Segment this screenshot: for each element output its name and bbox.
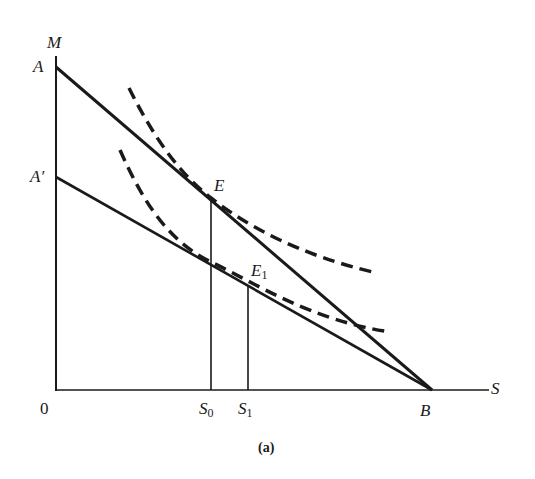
diagram-canvas [0, 0, 535, 479]
point-S1-label: S1 [238, 400, 253, 419]
point-S0-main: S [199, 399, 208, 418]
point-S0-sub: 0 [208, 406, 214, 420]
point-S1-main: S [238, 399, 247, 418]
point-S0-label: S0 [199, 400, 214, 419]
point-S1-sub: 1 [247, 406, 253, 420]
point-E-label: E [214, 177, 224, 194]
indifference-curve-lower [120, 150, 390, 332]
budget-line-A-prime-B [56, 177, 432, 390]
point-B-label: B [420, 402, 430, 419]
indifference-curve-upper [129, 88, 373, 272]
x-axis-label: S [491, 380, 500, 397]
budget-line-AB [56, 67, 432, 390]
y-axis-label: M [47, 34, 61, 51]
point-E1-sub: 1 [261, 268, 267, 282]
origin-label: 0 [40, 400, 49, 417]
figure-caption: (a) [258, 440, 274, 456]
point-E1-main: E [251, 261, 261, 280]
point-A-prime-label: A′ [30, 168, 44, 185]
point-E1-label: E1 [251, 262, 267, 281]
point-A-label: A [33, 58, 43, 75]
diagram: M A A′ E E1 0 S0 S1 B S (a) [0, 0, 535, 479]
